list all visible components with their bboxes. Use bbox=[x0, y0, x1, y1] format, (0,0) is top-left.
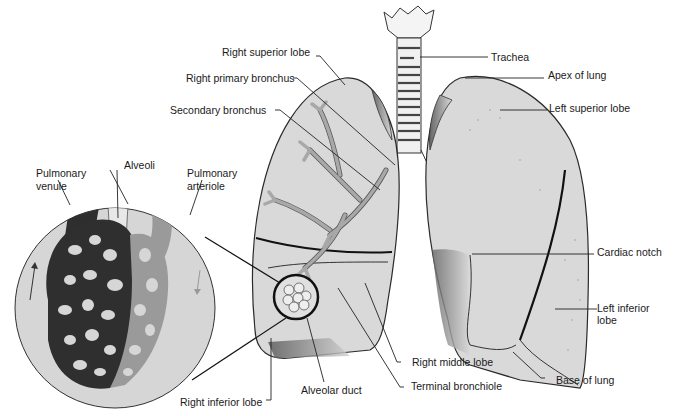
lung-illustration bbox=[0, 0, 674, 416]
label-pulmonary-arteriole-line2: arteriole bbox=[187, 180, 225, 192]
label-terminal-bronchiole: Terminal bronchiole bbox=[411, 380, 502, 392]
right-lung-shape bbox=[253, 78, 400, 358]
label-left-inferior-lobe-line2: lobe bbox=[597, 314, 617, 326]
label-right-superior-lobe: Right superior lobe bbox=[222, 46, 310, 58]
label-right-primary-bronchus: Right primary bronchus bbox=[186, 72, 295, 84]
label-base-of-lung: Base of lung bbox=[556, 374, 614, 386]
left-lung-shape bbox=[426, 77, 588, 388]
label-left-superior-lobe: Left superior lobe bbox=[549, 102, 630, 114]
label-trachea: Trachea bbox=[491, 51, 529, 63]
label-secondary-bronchus: Secondary bronchus bbox=[170, 104, 266, 116]
label-apex-of-lung: Apex of lung bbox=[548, 69, 606, 81]
label-right-inferior-lobe: Right inferior lobe bbox=[180, 396, 262, 408]
label-alveoli: Alveoli bbox=[124, 159, 155, 171]
label-left-inferior-lobe-line1: Left inferior bbox=[597, 302, 650, 314]
label-cardiac-notch: Cardiac notch bbox=[597, 246, 662, 258]
lung-diagram: Right superior lobe Right primary bronch… bbox=[0, 0, 674, 416]
label-pulmonary-venule-line2: venule bbox=[36, 180, 67, 192]
alveoli-inset bbox=[15, 200, 215, 408]
label-pulmonary-venule-line1: Pulmonary bbox=[36, 167, 86, 179]
label-right-middle-lobe: Right middle lobe bbox=[412, 356, 493, 368]
label-pulmonary-arteriole-line1: Pulmonary bbox=[187, 167, 237, 179]
label-alveolar-duct: Alveolar duct bbox=[301, 384, 362, 396]
